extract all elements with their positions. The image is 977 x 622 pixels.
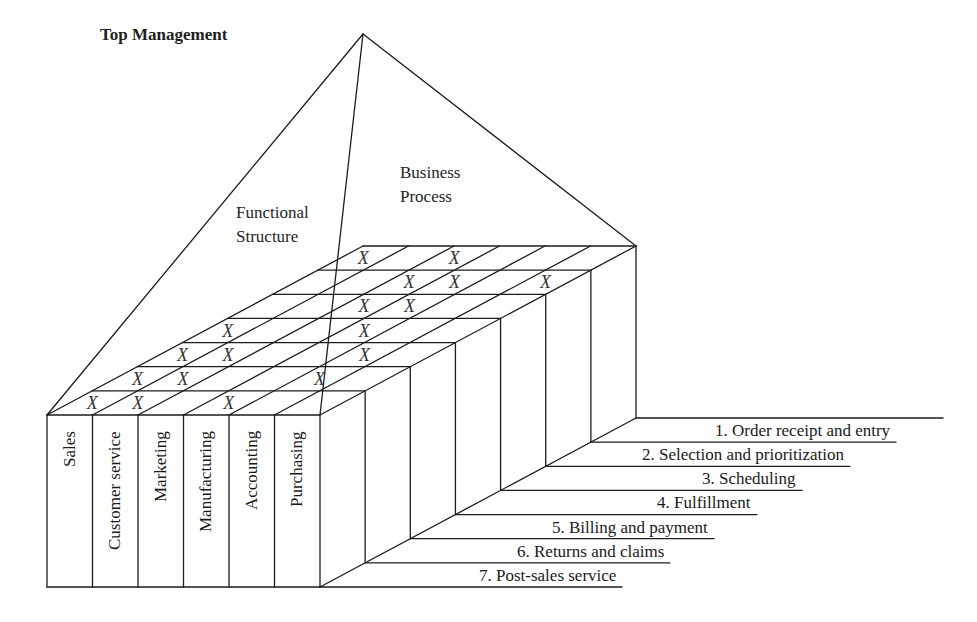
grid-column-line [229, 246, 545, 415]
functional-structure-label: Functional Structure [236, 201, 309, 249]
business-process-label: Business Process [400, 161, 460, 209]
function-label-sales: Sales [61, 431, 78, 467]
function-label-marketing: Marketing [152, 431, 169, 502]
x-mark: X [222, 393, 235, 413]
process-label-billing: 5. Billing and payment [552, 519, 708, 536]
x-mark: X [448, 248, 461, 268]
floor-diagonal [320, 418, 636, 587]
x-mark: X [131, 369, 144, 389]
process-label-selection: 2. Selection and prioritization [642, 446, 844, 463]
process-label-post-sales: 7. Post-sales service [479, 567, 616, 584]
function-label-customer-service: Customer service [106, 432, 123, 551]
top-management-pyramid [47, 34, 636, 415]
functional-structure-line-2: Structure [236, 225, 309, 249]
x-mark: X [176, 345, 189, 365]
process-label-scheduling: 3. Scheduling [702, 470, 796, 487]
function-process-block [47, 246, 636, 587]
x-mark: X [221, 321, 234, 341]
process-label-order-receipt: 1. Order receipt and entry [715, 422, 890, 439]
x-mark: X [86, 393, 99, 413]
x-marks: XXXXXXXXXXXXXXXXXX [86, 248, 552, 413]
function-label-purchasing: Purchasing [288, 431, 305, 507]
function-label-accounting: Accounting [243, 431, 260, 510]
pyramid-edge-right [363, 34, 636, 246]
diagram-svg: XXXXXXXXXXXXXXXXXX [0, 0, 977, 622]
x-mark: X [176, 369, 189, 389]
x-mark: X [222, 345, 235, 365]
x-mark: X [358, 345, 371, 365]
process-label-returns: 6. Returns and claims [517, 543, 664, 560]
pyramid-edge-left [47, 34, 363, 415]
grid-column-line [47, 246, 363, 415]
x-mark: X [448, 272, 461, 292]
x-mark: X [403, 296, 416, 316]
business-process-line-2: Process [400, 185, 460, 209]
x-mark: X [313, 369, 326, 389]
process-label-fulfillment: 4. Fulfillment [657, 494, 751, 511]
top-management-title: Top Management [100, 26, 227, 43]
x-mark: X [358, 321, 371, 341]
function-label-manufacturing: Manufacturing [197, 431, 214, 532]
pyramid-edge-middle [320, 34, 363, 415]
functional-structure-line-1: Functional [236, 201, 309, 225]
x-mark: X [357, 248, 370, 268]
x-mark: X [403, 272, 416, 292]
x-mark: X [131, 393, 144, 413]
business-process-line-1: Business [400, 161, 460, 185]
x-mark: X [357, 296, 370, 316]
process-lines [320, 418, 943, 587]
x-mark: X [539, 272, 552, 292]
